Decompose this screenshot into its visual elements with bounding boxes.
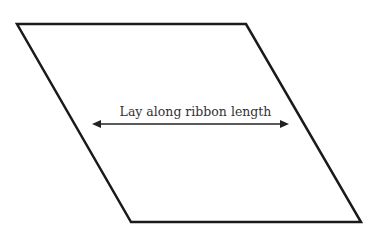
double-arrow (92, 120, 289, 128)
diagram-canvas (0, 0, 383, 246)
arrow-label: Lay along ribbon length (0, 104, 383, 119)
parallelogram-shape (17, 24, 361, 222)
arrowhead-left-icon (92, 120, 101, 128)
arrowhead-right-icon (280, 120, 289, 128)
